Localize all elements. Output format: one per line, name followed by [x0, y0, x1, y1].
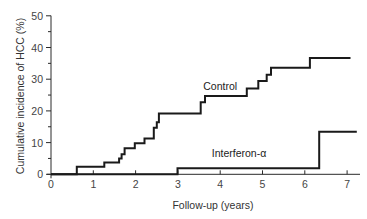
series-group: ControlInterferon-α	[51, 58, 357, 174]
y-tick-label: 20	[31, 105, 43, 117]
cumulative-incidence-chart: 01020304050 01234567 ControlInterferon-α…	[0, 0, 367, 219]
y-ticks: 01020304050	[31, 10, 51, 181]
series-line-interferon	[51, 132, 357, 175]
series-label-interferon: Interferon-α	[212, 147, 267, 159]
series-line-control	[51, 58, 351, 174]
x-tick-label: 7	[344, 178, 350, 190]
y-tick-label: 40	[31, 42, 43, 54]
x-tick-label: 0	[48, 178, 54, 190]
y-tick-label: 50	[31, 10, 43, 22]
x-tick-label: 3	[175, 178, 181, 190]
y-tick-label: 10	[31, 137, 43, 149]
x-tick-label: 6	[302, 178, 308, 190]
x-tick-label: 4	[217, 178, 223, 190]
y-axis-title: Cumulative incidence of HCC (%)	[14, 18, 26, 174]
x-tick-label: 1	[90, 178, 96, 190]
y-tick-label: 0	[37, 168, 43, 180]
y-tick-label: 30	[31, 73, 43, 85]
axes: 01020304050 01234567	[31, 10, 360, 191]
series-label-control: Control	[203, 80, 237, 92]
x-tick-label: 2	[133, 178, 139, 190]
x-axis-title: Follow-up (years)	[172, 199, 253, 211]
x-tick-label: 5	[260, 178, 266, 190]
